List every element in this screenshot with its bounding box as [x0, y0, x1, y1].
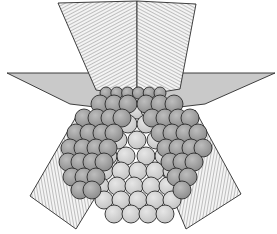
sphere	[83, 181, 101, 199]
sphere	[128, 131, 146, 149]
crystal-structure-diagram	[0, 0, 277, 234]
sphere	[122, 205, 140, 223]
sphere	[105, 205, 123, 223]
sphere	[173, 181, 191, 199]
sphere	[156, 205, 174, 223]
sphere	[139, 205, 157, 223]
